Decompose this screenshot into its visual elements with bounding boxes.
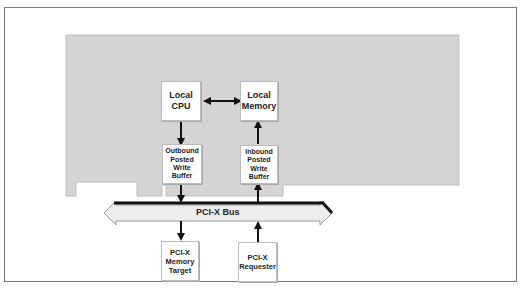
label-line: Inbound bbox=[245, 148, 273, 156]
label-line: Buffer bbox=[245, 173, 273, 181]
label-line: Posted bbox=[165, 156, 198, 164]
label-line: Memory bbox=[242, 101, 277, 112]
node-local-memory: LocalMemory bbox=[240, 81, 278, 121]
label-line: Write bbox=[245, 165, 273, 173]
node-local-cpu: LocalCPU bbox=[161, 81, 201, 121]
label-line: PCI-X bbox=[239, 253, 276, 262]
label-line: Target bbox=[166, 266, 195, 275]
label-line: Local bbox=[169, 90, 193, 101]
label-line: Requester bbox=[239, 262, 276, 271]
bus-label: PCI-X Bus bbox=[196, 207, 240, 217]
label-line: Write bbox=[165, 164, 198, 172]
label-line: Memory bbox=[166, 257, 195, 266]
node-pci-x-memory-target: PCI-XMemoryTarget bbox=[161, 241, 199, 281]
label-line: CPU bbox=[169, 101, 193, 112]
label-line: Posted bbox=[245, 156, 273, 164]
label-line: Outbound bbox=[165, 147, 198, 155]
label-line: Buffer bbox=[165, 172, 198, 180]
label-line: Local bbox=[242, 90, 277, 101]
node-outbound-posted-write-buffer: OutboundPostedWriteBuffer bbox=[162, 144, 202, 184]
node-inbound-posted-write-buffer: InboundPostedWriteBuffer bbox=[240, 145, 278, 184]
label-line: PCI-X bbox=[166, 248, 195, 257]
node-pci-x-requester: PCI-XRequester bbox=[238, 242, 277, 282]
